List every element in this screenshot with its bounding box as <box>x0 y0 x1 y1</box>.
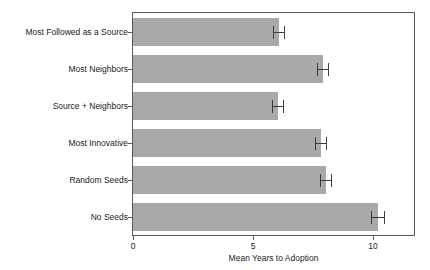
y-axis-category-label: Most Followed as a Source <box>25 27 128 37</box>
y-axis-category-label: Random Seeds <box>69 175 128 185</box>
y-axis-tick <box>128 143 132 144</box>
bars-layer <box>133 13 415 236</box>
x-axis-tick-label: 5 <box>233 241 273 251</box>
error-bar <box>272 100 284 113</box>
bar <box>133 92 278 120</box>
y-axis-tick <box>128 180 132 181</box>
error-bar <box>273 26 285 39</box>
bar-row <box>133 166 415 194</box>
bar-row <box>133 129 415 157</box>
y-axis-category-label: Source + Neighbors <box>53 101 128 111</box>
x-axis-title: Mean Years to Adoption <box>132 253 415 263</box>
y-axis-category-label: Most Innovative <box>68 138 128 148</box>
x-axis-tick <box>373 236 374 240</box>
bar-chart: Most Followed as a SourceMost NeighborsS… <box>0 0 430 270</box>
bar <box>133 129 321 157</box>
bar <box>133 166 326 194</box>
y-axis-category-label: No Seeds <box>91 212 128 222</box>
y-axis-tick <box>128 106 132 107</box>
x-axis-tick <box>133 236 134 240</box>
error-bar <box>320 174 332 187</box>
error-bar <box>317 63 329 76</box>
y-axis-tick <box>128 32 132 33</box>
x-axis-tick-label: 10 <box>353 241 393 251</box>
y-axis-tick <box>128 217 132 218</box>
bar <box>133 18 279 46</box>
x-axis-tick <box>253 236 254 240</box>
bar <box>133 55 323 83</box>
y-axis-category-label: Most Neighbors <box>68 64 128 74</box>
x-axis-tick-label: 0 <box>113 241 153 251</box>
bar <box>133 203 378 231</box>
error-bar <box>315 137 327 150</box>
bar-row <box>133 55 415 83</box>
error-bar <box>371 211 385 224</box>
y-axis-tick <box>128 69 132 70</box>
